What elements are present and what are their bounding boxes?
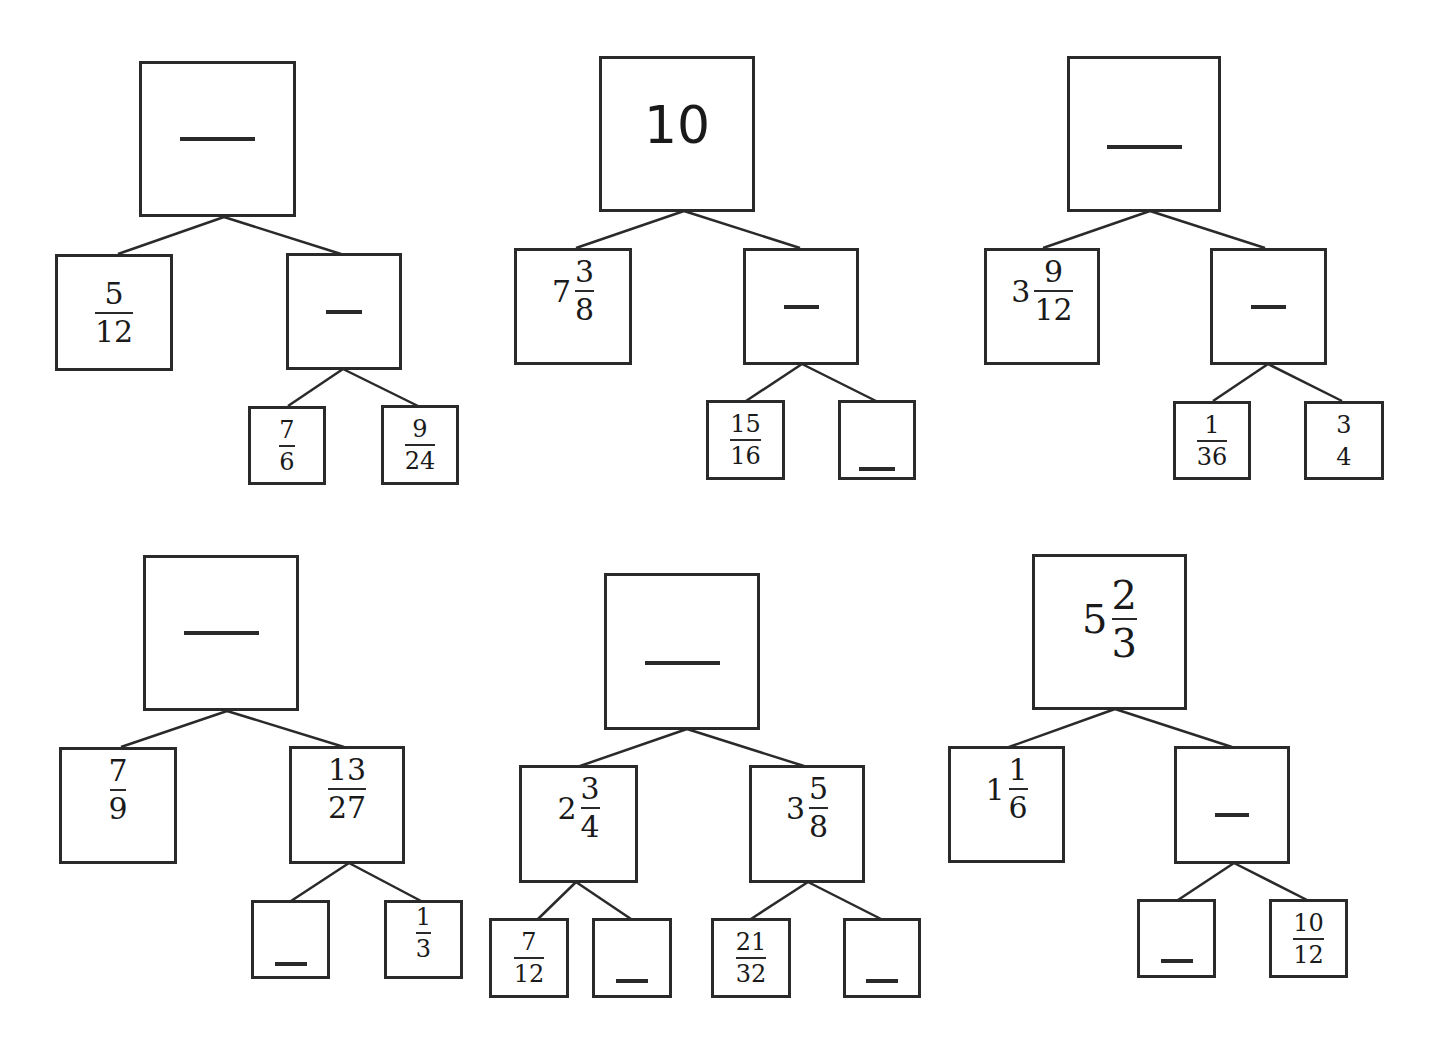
tree-5-left-box: 2 3 4	[519, 765, 638, 883]
answer-blank	[326, 310, 362, 314]
fraction: 13 27	[328, 755, 366, 823]
fraction-bar	[730, 439, 761, 441]
fraction: 7 6	[279, 418, 294, 474]
tree-4-left-box: 7 9	[59, 747, 177, 864]
fraction: 21 32	[736, 930, 767, 986]
tree-2-right-answer-box[interactable]	[743, 248, 859, 365]
tree-4-root-answer-box[interactable]	[143, 555, 299, 711]
tree-6-right-child-2-box: 10 12	[1269, 899, 1348, 978]
tree-1-right-child-1-box: 7 6	[248, 406, 326, 485]
tree-5-right-box: 3 5 8	[749, 765, 865, 883]
tree-3-left-box: 3 9 12	[984, 248, 1100, 365]
answer-blank	[1251, 305, 1286, 309]
mixed-number: 2 3 4	[557, 774, 599, 842]
fraction: 7 12	[514, 930, 545, 986]
fraction: 9 24	[405, 417, 436, 473]
fraction: 15 16	[730, 412, 761, 468]
tree-6-root-box: 5 2 3	[1032, 554, 1187, 710]
answer-blank	[184, 631, 259, 635]
tree-2-root-box: 10	[599, 56, 755, 212]
tree-4-right-box: 13 27	[289, 746, 405, 864]
answer-blank	[1107, 145, 1182, 149]
tree-2-left-box: 7 3 8	[514, 248, 632, 365]
fraction: 1 36	[1197, 413, 1228, 469]
tree-1-left-box: 5 12	[55, 254, 173, 371]
answer-blank	[616, 979, 648, 983]
tree-3-right-child-1-box: 1 36	[1173, 401, 1251, 480]
tree-5-root-answer-box[interactable]	[604, 573, 760, 730]
answer-blank	[275, 962, 307, 966]
answer-blank	[784, 305, 819, 309]
fraction-bar	[1197, 440, 1228, 442]
mixed-number: 1 1 6	[985, 755, 1027, 823]
tree-4-right-child-2-box: 1 3	[384, 900, 463, 979]
answer-blank	[859, 467, 895, 471]
mixed-number: 3 5 8	[786, 774, 828, 842]
tree-2-right-child-1-box: 15 16	[706, 400, 785, 480]
mixed-number: 7 3 8	[552, 257, 594, 325]
tree-6-right-answer-box[interactable]	[1174, 746, 1290, 864]
answer-blank	[645, 661, 720, 665]
fraction-bar	[514, 957, 545, 959]
answer-blank	[1161, 959, 1193, 963]
tree-5-left-child-1-box: 7 12	[489, 918, 569, 998]
fraction-bar	[405, 444, 436, 446]
fraction: 7 9	[108, 756, 127, 824]
tree-3-root-answer-box[interactable]	[1067, 56, 1221, 212]
tree-1-root-answer-box[interactable]	[139, 61, 296, 217]
answer-blank	[866, 979, 898, 983]
tree-3-right-answer-box[interactable]	[1210, 248, 1327, 365]
fraction: 1 3	[416, 905, 431, 961]
tree-6-right-child-1-answer-box[interactable]	[1137, 899, 1216, 978]
mixed-number: 3 9 12	[1011, 257, 1072, 325]
fraction: 10 12	[1293, 911, 1324, 967]
tree-5-right-child-2-answer-box[interactable]	[843, 918, 921, 998]
tree-1-right-child-2-box: 9 24	[381, 405, 459, 485]
tree-5-right-child-1-box: 21 32	[711, 918, 791, 998]
integer-value: 10	[644, 95, 710, 155]
fraction-bar	[736, 957, 767, 959]
fraction: 3 4	[1336, 413, 1352, 469]
answer-blank	[1215, 813, 1249, 817]
tree-3-right-child-2-box: 3 4	[1304, 401, 1384, 480]
fraction-bar	[416, 932, 431, 934]
tree-4-right-child-1-answer-box[interactable]	[251, 900, 330, 979]
answer-blank	[180, 137, 255, 141]
tree-6-left-box: 1 1 6	[948, 746, 1065, 863]
mixed-number: 5 2 3	[1082, 575, 1137, 663]
fraction-bar	[279, 445, 294, 447]
tree-5-left-child-2-answer-box[interactable]	[592, 918, 672, 998]
tree-2-right-child-2-answer-box[interactable]	[838, 400, 916, 480]
fraction-bar	[1293, 938, 1324, 940]
fraction: 5 12	[95, 279, 133, 347]
tree-1-right-answer-box[interactable]	[286, 253, 402, 370]
